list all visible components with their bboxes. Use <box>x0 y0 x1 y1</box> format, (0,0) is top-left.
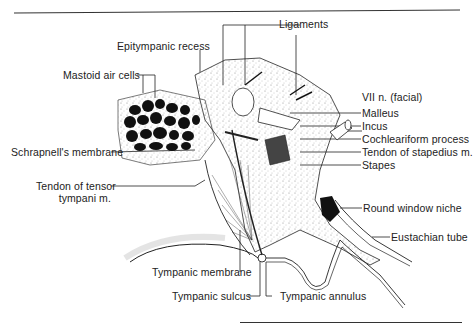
label-tympanic-sulcus: Tympanic sulcus <box>172 290 251 302</box>
label-vii-nerve: VII n. (facial) <box>362 91 422 103</box>
label-round-window-niche: Round window niche <box>363 202 462 214</box>
label-tendon-stapedius: Tendon of stapedius m. <box>362 146 473 158</box>
label-stapes: Stapes <box>362 159 395 171</box>
label-eustachian-tube: Eustachian tube <box>391 231 468 243</box>
petrous-bone <box>195 58 380 265</box>
label-tendon-tensor-1: Tendon of tensor <box>36 180 111 192</box>
label-tympanic-membrane: Tympanic membrane <box>152 266 252 278</box>
mastoid-region <box>118 90 215 165</box>
label-schrapnells-membrane: Schrapnell's membrane <box>11 146 123 158</box>
label-cochleariform-process: Cochleariform process <box>362 133 469 145</box>
label-malleus: Malleus <box>362 107 399 119</box>
label-ligaments: Ligaments <box>279 18 328 30</box>
label-tympanic-annulus: Tympanic annulus <box>280 290 366 302</box>
label-incus: Incus <box>362 120 388 132</box>
label-mastoid-air-cells: Mastoid air cells <box>63 69 140 81</box>
label-epitympanic-recess: Epitympanic recess <box>117 40 210 52</box>
malleus-head <box>232 88 254 116</box>
label-tendon-tensor-2: tympani m. <box>36 192 111 204</box>
